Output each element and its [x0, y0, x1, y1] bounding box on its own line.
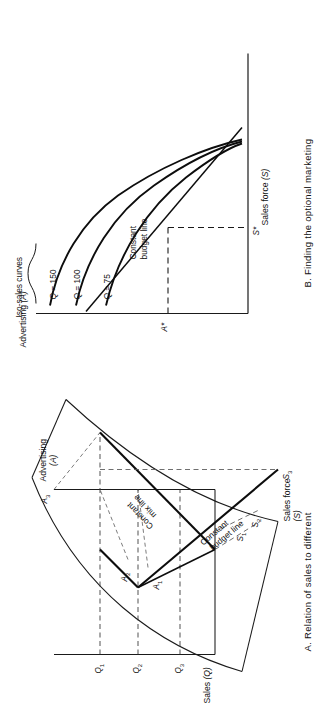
panel-a-tick-s1: S1 — [236, 532, 247, 541]
panel-a-tick-q3: Q3 — [174, 663, 185, 673]
tick-sub: 2 — [125, 572, 131, 575]
tick-sub: 2 — [256, 518, 262, 521]
tick-sub: 1 — [241, 532, 247, 535]
tick-sub: 3 — [287, 470, 293, 473]
panel-a-y-axis-label: Sales (Q) — [202, 667, 212, 703]
tick-sub: 1 — [99, 663, 105, 666]
tick-sub: 2 — [137, 663, 143, 666]
panel-a-x-axis-label: Advertising (A) — [38, 438, 58, 481]
panel-a-x-axis-name: Advertising — [38, 438, 48, 481]
iso-label-value: 100 — [72, 269, 82, 283]
panel-a-z-axis-label: Sales force (S) — [282, 478, 300, 521]
iso-label-value: 75 — [102, 274, 112, 283]
panel-b-x-axis-label: Sales force (S) — [260, 168, 270, 225]
panel-a-tick-q2: Q2 — [132, 663, 143, 673]
tick-letter: Q — [174, 667, 183, 673]
panel-a-z-axis-symbol: (S) — [292, 510, 300, 521]
panel-a-tick-a2: A2 — [120, 572, 131, 581]
panel-a-drawing — [10, 367, 300, 717]
panel-b-optimum-salesforce-label: S* — [252, 226, 261, 235]
figure-plate: Sales (Q) Advertising (A) Sales force (S… — [10, 0, 300, 725]
panel-b-x-axis-name: Sales force — [260, 182, 270, 225]
panel-a: Sales (Q) Advertising (A) Sales force (S… — [10, 367, 300, 717]
tick-sub: 3 — [45, 494, 51, 497]
panel-a-tick-a3: A3 — [40, 494, 51, 503]
panel-b-brace-label: Iso-sales curves — [14, 256, 24, 317]
tick-sub: 3 — [179, 663, 185, 666]
panel-a-tick-q1: Q1 — [94, 663, 105, 673]
iso-label-prefix: Q = — [72, 283, 82, 299]
tick-sub: 1 — [157, 580, 163, 583]
panel-b-iso-label-150: Q = 150 — [48, 269, 58, 299]
panel-b-x-axis-symbol: (S) — [260, 168, 270, 179]
panel-a-y-axis-name: Sales — [202, 682, 212, 704]
annotation-line-1: Constant — [128, 225, 138, 259]
panel-b: Advertising (A) Sales force (S) Iso-sale… — [10, 8, 300, 353]
panel-a-tick-a1: A1 — [152, 580, 163, 589]
tick-letter: Q — [94, 667, 103, 673]
panel-a-tick-s3: S3 — [282, 470, 293, 479]
annotation-line-2: budget line — [139, 218, 149, 259]
iso-label-prefix: Q = — [102, 283, 112, 299]
panel-b-iso-label-100: Q = 100 — [72, 269, 82, 299]
panel-a-z-axis-name: Sales force — [282, 478, 292, 521]
panel-b-drawing — [10, 8, 300, 353]
tick-letter: Q — [132, 667, 141, 673]
iso-label-value: 150 — [48, 269, 58, 283]
panel-a-y-axis-symbol: (Q) — [202, 667, 212, 679]
panel-b-constant-budget-line-label: Constant budget line — [128, 218, 150, 259]
iso-label-prefix: Q = — [48, 283, 58, 299]
panel-a-x-axis-symbol: (A) — [48, 454, 58, 465]
panel-b-iso-label-75: Q = 75 — [102, 274, 112, 299]
panel-a-tick-s2: S2 — [251, 518, 262, 527]
panel-b-optimum-advertising-label: A* — [160, 322, 169, 331]
